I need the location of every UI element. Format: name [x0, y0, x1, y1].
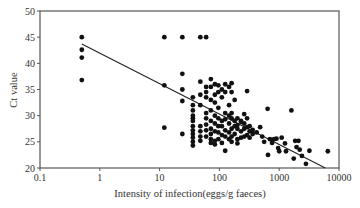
data-point	[277, 149, 282, 154]
data-point	[198, 124, 203, 129]
data-point	[250, 127, 255, 132]
x-tick-label: 100	[212, 172, 227, 183]
data-point	[284, 149, 289, 154]
data-point	[274, 136, 279, 141]
data-point	[162, 35, 167, 40]
y-tick-label: 30	[25, 110, 35, 121]
x-tick-label: 0.1	[34, 172, 47, 183]
y-tick-label: 50	[25, 6, 35, 17]
data-point	[204, 90, 209, 95]
y-tick-label: 45	[25, 32, 35, 43]
data-point	[180, 35, 185, 40]
data-point	[208, 98, 213, 103]
data-point	[208, 108, 213, 113]
data-point	[208, 119, 213, 124]
data-points	[79, 35, 330, 166]
data-point	[162, 83, 167, 88]
data-point	[219, 95, 224, 100]
y-tick-label: 40	[25, 58, 35, 69]
data-point	[190, 119, 195, 124]
chart-svg: 0.1110100100010000 20253035404550 Intens…	[0, 0, 360, 208]
data-point	[190, 143, 195, 148]
y-axis-label: Ct value	[8, 72, 19, 108]
data-point	[291, 156, 296, 161]
data-point	[208, 84, 213, 89]
data-point	[79, 78, 84, 83]
x-tick-label: 10	[155, 172, 165, 183]
data-point	[180, 87, 185, 92]
data-point	[235, 141, 240, 146]
data-point	[247, 135, 252, 140]
data-point	[180, 99, 185, 104]
data-point	[229, 90, 234, 95]
data-point	[204, 116, 209, 121]
data-point	[229, 81, 234, 86]
data-point	[247, 124, 252, 129]
data-point	[279, 135, 284, 140]
data-point	[208, 77, 213, 82]
data-point	[208, 132, 213, 137]
data-point	[204, 122, 209, 127]
data-point	[79, 35, 84, 40]
data-point	[198, 129, 203, 134]
data-point	[297, 147, 302, 152]
data-point	[254, 130, 259, 135]
y-axis-ticks: 20253035404550	[25, 6, 40, 174]
data-point	[232, 98, 237, 103]
data-point	[283, 141, 288, 146]
data-point	[325, 149, 330, 154]
data-point	[223, 90, 228, 95]
data-point	[229, 111, 234, 116]
x-tick-label: 1000	[269, 172, 289, 183]
regression-line	[82, 44, 325, 168]
y-tick-label: 35	[25, 84, 35, 95]
data-point	[304, 161, 309, 166]
data-point	[180, 71, 185, 76]
data-point	[162, 125, 167, 130]
x-axis-label: Intensity of infection(eggs/g faeces)	[114, 188, 266, 200]
data-point	[204, 128, 209, 133]
data-point	[245, 116, 250, 121]
data-point	[204, 111, 209, 116]
data-point	[190, 95, 195, 100]
data-point	[223, 148, 228, 153]
data-point	[204, 84, 209, 89]
data-point	[198, 35, 203, 40]
y-tick-label: 20	[25, 163, 35, 174]
data-point	[79, 55, 84, 60]
data-point	[266, 153, 271, 158]
data-point	[180, 132, 185, 137]
data-point	[198, 79, 203, 84]
scatter-chart: 0.1110100100010000 20253035404550 Intens…	[0, 0, 360, 208]
data-point	[198, 138, 203, 143]
data-point	[260, 134, 265, 139]
data-point	[300, 154, 305, 159]
data-point	[198, 134, 203, 139]
x-axis-ticks: 0.1110100100010000	[34, 168, 352, 183]
data-point	[190, 135, 195, 140]
data-point	[219, 140, 224, 145]
data-point	[204, 134, 209, 139]
data-point	[245, 89, 250, 94]
data-point	[258, 125, 263, 130]
data-point	[262, 139, 267, 144]
data-point	[212, 100, 217, 105]
data-point	[232, 132, 237, 137]
data-point	[190, 108, 195, 113]
data-point	[216, 137, 221, 142]
data-point	[219, 124, 224, 129]
data-point	[204, 95, 209, 100]
data-point	[216, 105, 221, 110]
data-point	[198, 103, 203, 108]
x-tick-label: 1	[97, 172, 102, 183]
data-point	[223, 117, 228, 122]
x-tick-label: 10000	[327, 172, 352, 183]
data-point	[296, 138, 301, 143]
data-point	[229, 139, 234, 144]
data-point	[265, 106, 270, 111]
data-point	[216, 83, 221, 88]
y-tick-label: 25	[25, 136, 35, 147]
data-point	[208, 126, 213, 131]
data-point	[198, 92, 203, 97]
data-point	[289, 108, 294, 113]
